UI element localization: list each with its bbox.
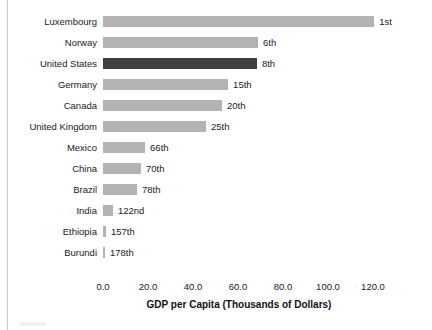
bar-row: Norway6th (0, 32, 432, 53)
bar (103, 100, 222, 111)
bar-row: Mexico66th (0, 137, 432, 158)
x-tick-label: 0.0 (96, 281, 109, 292)
x-tick-label: 80.0 (274, 281, 293, 292)
bar (103, 247, 105, 258)
x-tick-label: 60.0 (229, 281, 248, 292)
bar-value-label: 8th (262, 53, 275, 74)
bar-value-label: 70th (146, 158, 165, 179)
category-label: Norway (0, 32, 97, 53)
bar-value-label: 78th (142, 179, 161, 200)
category-label: Luxembourg (0, 11, 97, 32)
bar-value-label: 178th (110, 242, 134, 263)
bar (103, 163, 141, 174)
bar-value-label: 157th (111, 221, 135, 242)
x-tick-label: 40.0 (184, 281, 203, 292)
category-label: Canada (0, 95, 97, 116)
category-label: China (0, 158, 97, 179)
bar-row: Brazil78th (0, 179, 432, 200)
bar-row: China70th (0, 158, 432, 179)
x-tick-label: 20.0 (139, 281, 158, 292)
bar (103, 205, 113, 216)
bar (103, 121, 206, 132)
bar (103, 79, 228, 90)
bar-row: India122nd (0, 200, 432, 221)
bar-value-label: 6th (263, 32, 276, 53)
bar-row: United States8th (0, 53, 432, 74)
category-label: United States (0, 53, 97, 74)
bar-value-label: 1st (379, 11, 392, 32)
bar (103, 184, 137, 195)
bar (103, 58, 257, 69)
bar (103, 16, 374, 27)
bar-value-label: 20th (227, 95, 246, 116)
category-label: Burundi (0, 242, 97, 263)
category-label: United Kingdom (0, 116, 97, 137)
x-axis-title: GDP per Capita (Thousands of Dollars) (103, 299, 375, 310)
bar-value-label: 122nd (118, 200, 144, 221)
bar-row: Canada20th (0, 95, 432, 116)
category-label: Brazil (0, 179, 97, 200)
gdp-per-capita-bar-chart: Luxembourg1stNorway6thUnited States8thGe… (0, 0, 432, 330)
bar-row: Germany15th (0, 74, 432, 95)
bar-row: Ethiopia157th (0, 221, 432, 242)
bar-value-label: 25th (211, 116, 230, 137)
x-tick-label: 100.0 (316, 281, 340, 292)
bar-row: United Kingdom25th (0, 116, 432, 137)
bar (103, 142, 145, 153)
category-label: Ethiopia (0, 221, 97, 242)
bar (103, 37, 258, 48)
bar-row: Burundi178th (0, 242, 432, 263)
category-label: Mexico (0, 137, 97, 158)
category-label: Germany (0, 74, 97, 95)
x-tick-label: 120.0 (361, 281, 385, 292)
category-label: India (0, 200, 97, 221)
bar-value-label: 66th (150, 137, 169, 158)
bar (103, 226, 106, 237)
bar-value-label: 15th (233, 74, 252, 95)
bar-row: Luxembourg1st (0, 11, 432, 32)
